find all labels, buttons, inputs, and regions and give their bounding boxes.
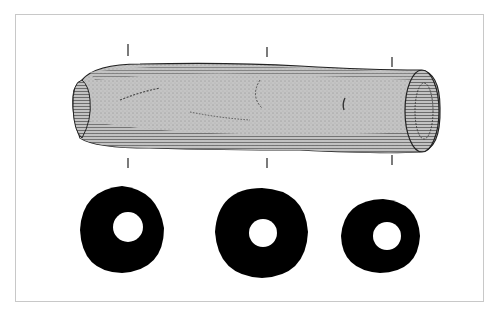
cross-section-1: [80, 186, 164, 273]
cross-section-2: [215, 188, 308, 278]
artifact-drawing: [0, 0, 500, 317]
tubular-object: [73, 63, 440, 152]
cross-section-3: [341, 199, 420, 273]
